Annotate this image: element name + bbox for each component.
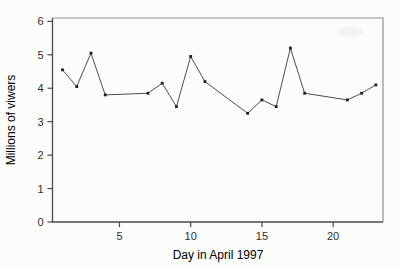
y-tick-label: 5: [37, 49, 43, 61]
axis-ticks: 51015200123456: [37, 15, 339, 242]
data-point: [289, 47, 292, 50]
data-point: [360, 92, 363, 95]
data-point: [275, 105, 278, 108]
x-tick-label: 15: [256, 230, 268, 242]
data-point: [374, 83, 377, 86]
data-point: [104, 94, 107, 97]
data-point: [147, 92, 150, 95]
y-tick-label: 4: [37, 82, 43, 94]
data-point: [61, 68, 64, 71]
y-tick-label: 3: [37, 116, 43, 128]
data-point: [75, 85, 78, 88]
data-point: [246, 112, 249, 115]
frame-top-right: [53, 18, 384, 222]
y-tick-label: 1: [37, 183, 43, 195]
x-tick-label: 5: [116, 230, 122, 242]
data-point: [90, 52, 93, 55]
y-axis-title: Millions of viwers: [4, 75, 18, 166]
data-point: [204, 80, 207, 83]
data-point: [161, 82, 164, 85]
y-tick-label: 6: [37, 15, 43, 27]
series-line: [62, 48, 375, 113]
data-point: [189, 55, 192, 58]
data-point: [175, 105, 178, 108]
data-point: [261, 99, 264, 102]
data-point: [303, 92, 306, 95]
frame-left-bottom: [53, 18, 384, 222]
data-point: [346, 99, 349, 102]
data-series: [61, 47, 377, 115]
plot-frame: [53, 18, 384, 222]
x-axis-title: Day in April 1997: [173, 248, 264, 262]
x-tick-label: 10: [185, 230, 197, 242]
y-tick-label: 0: [37, 216, 43, 228]
chart-figure: 51015200123456 Day in April 1997 Million…: [0, 0, 399, 267]
x-tick-label: 20: [327, 230, 339, 242]
y-tick-label: 2: [37, 149, 43, 161]
line-chart: 51015200123456 Day in April 1997 Million…: [0, 0, 399, 267]
